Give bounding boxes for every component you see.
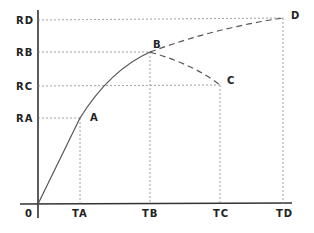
vertical-guides [80, 18, 283, 204]
y-label-rc: RC [16, 81, 33, 92]
curve-b-to-d [150, 18, 283, 52]
point-label-a: A [90, 112, 99, 123]
x-label-td: TD [276, 208, 293, 219]
curve-0-to-b [38, 52, 150, 204]
x-label-tb: TB [142, 208, 158, 219]
horizontal-guides [38, 18, 283, 118]
y-label-rd: RD [16, 15, 34, 26]
diagram-canvas: RD RB RC RA 0 TA TB TC TD A B C D [0, 0, 314, 233]
x-axis [20, 203, 292, 204]
point-label-b: B [153, 39, 162, 50]
point-label-c: C [227, 75, 235, 86]
x-label-ta: TA [72, 208, 88, 219]
x-label-tc: TC [213, 208, 229, 219]
point-label-d: D [291, 10, 300, 21]
curve-b-to-c [150, 52, 220, 85]
origin-label: 0 [25, 208, 33, 219]
y-label-ra: RA [16, 113, 33, 124]
y-label-rb: RB [16, 47, 33, 58]
